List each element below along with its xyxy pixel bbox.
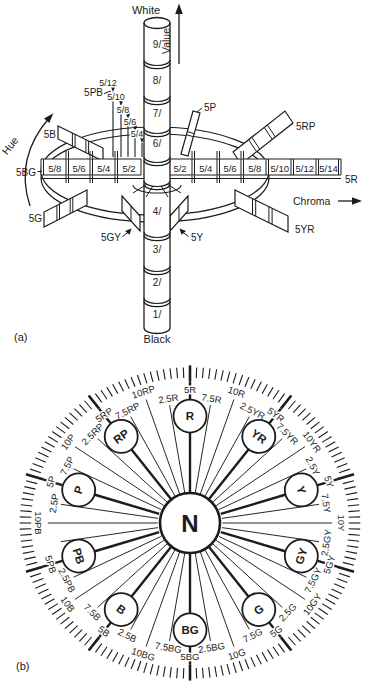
minor-hue-tick <box>332 589 342 594</box>
minor-hue-tick <box>65 417 73 424</box>
plane-5P-face <box>181 111 200 156</box>
minor-hue-tick <box>293 633 300 641</box>
minor-hue-tick <box>307 417 315 424</box>
chroma-cell-label: 5/8 <box>48 163 61 174</box>
ring-label-2.5R: 2.5R <box>158 391 180 405</box>
chroma-cell-label: 5/2 <box>122 163 135 174</box>
hue-circle-label-BG: BG <box>181 624 198 636</box>
minor-hue-tick <box>45 442 55 447</box>
minor-hue-tick <box>346 493 357 495</box>
minor-hue-tick <box>344 557 355 559</box>
ring-label-10B: 10B <box>58 594 77 614</box>
hue-5GY-label: 5GY <box>101 232 121 243</box>
minor-hue-tick <box>163 369 165 379</box>
value-axis-label: Value <box>160 28 172 54</box>
minor-hue-tick <box>131 659 135 669</box>
minor-hue-tick <box>33 463 44 467</box>
minor-hue-tick <box>268 650 274 659</box>
hue-5B-label: 5B <box>44 129 57 140</box>
minor-hue-tick <box>65 622 73 629</box>
pb-chroma-scale-label: 5/10 <box>107 92 125 102</box>
chroma-band: 5/85/65/45/25/25/45/65/85/105/125/14 <box>41 151 341 183</box>
ring-label-7.5Y: 7.5Y <box>319 493 333 515</box>
ring-label-5RP: 5RP <box>93 405 114 425</box>
minor-hue-tick <box>48 437 58 443</box>
minor-hue-tick <box>209 667 210 677</box>
minor-hue-tick <box>298 409 306 417</box>
hue-5G-label: 5G <box>29 213 43 224</box>
minor-hue-tick <box>302 626 310 633</box>
minor-hue-tick <box>337 463 348 467</box>
minor-hue-tick <box>227 372 230 382</box>
ring-label-2.5P: 2.5P <box>47 493 61 514</box>
pb-chroma-scale-label: 5/4 <box>131 129 144 139</box>
minor-hue-tick <box>150 664 153 674</box>
minor-hue-tick <box>33 579 44 583</box>
minor-hue-tick <box>157 665 159 675</box>
minor-hue-tick <box>101 647 107 656</box>
minor-hue-tick <box>85 637 92 645</box>
minor-hue-tick <box>24 487 35 489</box>
chroma-cell-label: 5/10 <box>271 163 290 174</box>
minor-hue-tick <box>60 422 69 429</box>
value-cylinder: 9/8/7/6/4/3/2/1/ <box>144 18 170 334</box>
leader-5P <box>197 108 202 112</box>
minor-hue-tick <box>337 579 348 583</box>
minor-hue-tick <box>41 447 51 452</box>
minor-hue-tick <box>113 652 118 661</box>
chroma-cell-label: 5/6 <box>72 163 85 174</box>
minor-hue-tick <box>22 499 33 501</box>
plane-5GY <box>122 196 140 231</box>
minor-hue-tick <box>329 447 339 452</box>
minor-hue-tick <box>307 622 315 629</box>
minor-hue-tick <box>170 667 171 677</box>
ring-label-7.5R: 7.5R <box>201 391 223 405</box>
minor-hue-tick <box>101 390 107 399</box>
minor-hue-tick <box>26 562 37 565</box>
hue-5Y-label: 5Y <box>191 232 204 243</box>
minor-hue-tick <box>278 394 284 403</box>
minor-hue-tick <box>107 387 113 396</box>
ring-label-7.5YR: 7.5YR <box>274 421 301 448</box>
minor-hue-tick <box>30 469 41 473</box>
minor-hue-tick <box>262 652 267 661</box>
minor-hue-tick <box>95 394 101 403</box>
munsell-solid-art: 5/125/105/85/65/45/85/65/45/25/25/45/65/… <box>41 18 341 334</box>
major-hue-tick <box>337 474 354 479</box>
plane-5YR <box>235 190 288 232</box>
ring-label-5BG: 5BG <box>180 651 199 662</box>
value-segment-label: 6/ <box>153 138 162 149</box>
minor-hue-tick <box>251 657 255 667</box>
minor-hue-tick <box>245 377 249 387</box>
minor-hue-tick <box>302 413 310 420</box>
minor-hue-tick <box>20 534 31 535</box>
minor-hue-tick <box>170 368 171 378</box>
minor-hue-tick <box>30 573 41 577</box>
chroma-cell-label: 5/4 <box>97 163 110 174</box>
minor-hue-tick <box>113 384 118 393</box>
ring-label-7.5G: 7.5G <box>241 626 264 645</box>
minor-hue-tick <box>22 546 33 548</box>
minor-hue-tick <box>239 661 243 671</box>
minor-hue-tick <box>52 432 61 438</box>
minor-hue-tick <box>348 534 359 535</box>
major-hue-tick <box>26 567 43 572</box>
minor-hue-tick <box>38 452 48 457</box>
minor-hue-tick <box>23 493 34 495</box>
minor-hue-tick <box>298 630 306 638</box>
ring-label-10G: 10G <box>226 646 246 662</box>
minor-hue-tick <box>325 599 335 604</box>
minor-hue-tick <box>319 608 328 614</box>
neutral-hub-label: N <box>181 510 198 537</box>
minor-hue-tick <box>239 375 243 385</box>
minor-hue-tick <box>227 664 230 674</box>
minor-hue-tick <box>70 626 78 633</box>
minor-hue-tick <box>221 370 223 380</box>
minor-hue-tick <box>45 599 55 604</box>
pb-chroma-scale-label: 5/8 <box>117 105 130 115</box>
minor-hue-tick <box>24 557 35 559</box>
hue-circle-label-R: R <box>186 410 195 422</box>
minor-hue-tick <box>348 511 359 512</box>
minor-hue-tick <box>21 505 32 506</box>
minor-hue-tick <box>339 573 350 577</box>
